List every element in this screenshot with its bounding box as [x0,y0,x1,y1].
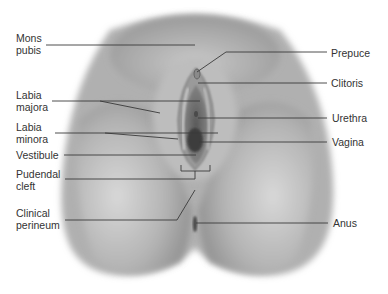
label-labia-minora: Labia minora [16,121,48,145]
label-labia-majora: Labia majora [16,89,48,113]
label-pudendal-cleft: Pudendal cleft [16,168,60,192]
label-clitoris: Clitoris [331,77,363,89]
urethral-opening [194,111,198,117]
label-anus: Anus [333,217,357,229]
label-vestibule: Vestibule [16,149,59,161]
anatomy-figure: Mons pubis Labia majora Labia minora Ves… [0,0,388,294]
anatomy-illustration [0,0,388,294]
label-urethra: Urethra [332,112,367,124]
label-vagina: Vagina [332,136,364,148]
vaginal-opening [187,128,203,152]
anus-shape [193,216,197,232]
label-clinical-perineum: Clinical perineum [16,207,60,231]
label-prepuce: Prepuce [331,47,370,59]
label-mons-pubis: Mons pubis [16,32,42,56]
